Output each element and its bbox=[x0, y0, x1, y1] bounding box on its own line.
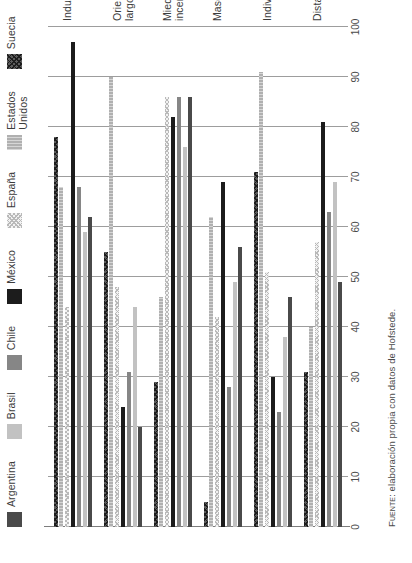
bar-brasil-miedo-a-la-incertidumbre[interactable] bbox=[183, 147, 187, 527]
bar-mexico-masculinidad[interactable] bbox=[221, 182, 225, 527]
bar-row bbox=[254, 27, 258, 527]
bar-estados-unidos-individualismo[interactable] bbox=[259, 72, 263, 527]
source-label: Fuente: bbox=[386, 494, 397, 527]
bar-estados-unidos-distancia-del-poder[interactable] bbox=[309, 327, 313, 527]
bar-brasil-orientacion-de-largo-plazo[interactable] bbox=[133, 307, 137, 527]
bar-row bbox=[127, 27, 131, 527]
bar-chile-masculinidad[interactable] bbox=[227, 387, 231, 527]
bar-row bbox=[265, 27, 269, 527]
bar-row bbox=[88, 27, 92, 527]
bar-estados-unidos-miedo-a-la-incertidumbre[interactable] bbox=[159, 297, 163, 527]
legend-item-brasil[interactable]: Brasil bbox=[6, 392, 22, 439]
bar-estados-unidos-indulgencia[interactable] bbox=[59, 187, 63, 527]
bar-argentina-masculinidad[interactable] bbox=[238, 247, 242, 527]
bar-row bbox=[271, 27, 275, 527]
bar-row bbox=[288, 27, 292, 527]
bar-row bbox=[188, 27, 192, 527]
bar-brasil-masculinidad[interactable] bbox=[233, 282, 237, 527]
bar-group-indulgencia bbox=[48, 27, 98, 527]
bar-brasil-individualismo[interactable] bbox=[283, 337, 287, 527]
bar-suecia-indulgencia[interactable] bbox=[54, 137, 58, 527]
bar-row bbox=[133, 27, 137, 527]
legend-label-suecia: Suecia bbox=[6, 16, 18, 49]
bar-mexico-distancia-del-poder[interactable] bbox=[321, 122, 325, 527]
legend-swatch-espana bbox=[7, 213, 22, 228]
bar-row bbox=[171, 27, 175, 527]
bar-argentina-individualismo[interactable] bbox=[288, 297, 292, 527]
bar-row bbox=[104, 27, 108, 527]
legend-item-argentina[interactable]: Argentina bbox=[6, 461, 22, 527]
plot-area bbox=[48, 27, 348, 527]
legend-swatch-brasil bbox=[7, 424, 22, 439]
bar-argentina-indulgencia[interactable] bbox=[88, 217, 92, 527]
bar-row bbox=[227, 27, 231, 527]
bar-espana-indulgencia[interactable] bbox=[65, 307, 69, 527]
x-tick-0: 0 bbox=[350, 524, 361, 530]
x-tick-70: 70 bbox=[350, 171, 361, 182]
category-label-indulgencia: Indulgencia bbox=[62, 0, 74, 21]
legend-item-estados-unidos[interactable]: Estados Unidos bbox=[6, 91, 29, 150]
bar-estados-unidos-orientacion-de-largo-plazo[interactable] bbox=[109, 77, 113, 527]
bar-row bbox=[233, 27, 237, 527]
bar-brasil-indulgencia[interactable] bbox=[83, 232, 87, 527]
x-tick-50: 50 bbox=[350, 271, 361, 282]
bar-estados-unidos-masculinidad[interactable] bbox=[209, 217, 213, 527]
bar-row bbox=[159, 27, 163, 527]
x-tick-40: 40 bbox=[350, 321, 361, 332]
chart-legend: ArgentinaBrasilChileMéxicoEspañaEstados … bbox=[6, 27, 46, 527]
category-label-masculinidad: Masculinidad bbox=[212, 0, 224, 21]
x-axis-tick-labels: 0102030405060708090100 bbox=[350, 27, 376, 527]
bar-row bbox=[283, 27, 287, 527]
bar-group-individualismo bbox=[248, 27, 298, 527]
x-tick-30: 30 bbox=[350, 371, 361, 382]
bar-suecia-orientacion-de-largo-plazo[interactable] bbox=[104, 252, 108, 527]
bar-espana-miedo-a-la-incertidumbre[interactable] bbox=[165, 97, 169, 527]
bar-brasil-distancia-del-poder[interactable] bbox=[333, 182, 337, 527]
bar-chile-orientacion-de-largo-plazo[interactable] bbox=[127, 372, 131, 527]
bar-suecia-masculinidad[interactable] bbox=[204, 502, 208, 527]
bar-argentina-distancia-del-poder[interactable] bbox=[338, 282, 342, 527]
bar-espana-distancia-del-poder[interactable] bbox=[315, 242, 319, 527]
legend-item-suecia[interactable]: Suecia bbox=[6, 16, 22, 69]
bar-row bbox=[315, 27, 319, 527]
bar-row bbox=[115, 27, 119, 527]
bar-espana-masculinidad[interactable] bbox=[215, 317, 219, 527]
bar-espana-individualismo[interactable] bbox=[265, 272, 269, 527]
bar-mexico-miedo-a-la-incertidumbre[interactable] bbox=[171, 117, 175, 527]
bar-row bbox=[54, 27, 58, 527]
bars-and-grid bbox=[48, 27, 348, 527]
legend-swatch-chile bbox=[7, 355, 22, 370]
bar-chile-miedo-a-la-incertidumbre[interactable] bbox=[177, 97, 181, 527]
bar-chile-distancia-del-poder[interactable] bbox=[327, 212, 331, 527]
bar-argentina-orientacion-de-largo-plazo[interactable] bbox=[138, 427, 142, 527]
bar-argentina-miedo-a-la-incertidumbre[interactable] bbox=[188, 97, 192, 527]
bar-row bbox=[221, 27, 225, 527]
bar-mexico-indulgencia[interactable] bbox=[71, 42, 75, 527]
legend-item-mexico[interactable]: México bbox=[6, 250, 22, 304]
legend-swatch-suecia bbox=[7, 54, 22, 69]
bar-row bbox=[59, 27, 63, 527]
rotated-chart-frame: ArgentinaBrasilChileMéxicoEspañaEstados … bbox=[0, 0, 412, 563]
bar-chile-individualismo[interactable] bbox=[277, 412, 281, 527]
bar-suecia-distancia-del-poder[interactable] bbox=[304, 372, 308, 527]
bar-group-masculinidad bbox=[198, 27, 248, 527]
bar-row bbox=[338, 27, 342, 527]
bar-mexico-orientacion-de-largo-plazo[interactable] bbox=[121, 407, 125, 527]
source-text: elaboración propia con datos de Hofstede… bbox=[386, 309, 397, 494]
legend-label-mexico: México bbox=[6, 250, 18, 284]
bar-row bbox=[238, 27, 242, 527]
bar-mexico-individualismo[interactable] bbox=[271, 377, 275, 527]
x-tick-20: 20 bbox=[350, 421, 361, 432]
bar-row bbox=[204, 27, 208, 527]
legend-item-espana[interactable]: España bbox=[6, 172, 22, 228]
bar-row bbox=[277, 27, 281, 527]
bar-row bbox=[154, 27, 158, 527]
source-note: Fuente: elaboración propia con datos de … bbox=[386, 309, 397, 527]
bar-espana-orientacion-de-largo-plazo[interactable] bbox=[115, 287, 119, 527]
bar-row bbox=[121, 27, 125, 527]
bar-suecia-individualismo[interactable] bbox=[254, 172, 258, 527]
bar-row bbox=[77, 27, 81, 527]
bar-suecia-miedo-a-la-incertidumbre[interactable] bbox=[154, 382, 158, 527]
legend-item-chile[interactable]: Chile bbox=[6, 326, 22, 370]
bar-chile-indulgencia[interactable] bbox=[77, 187, 81, 527]
